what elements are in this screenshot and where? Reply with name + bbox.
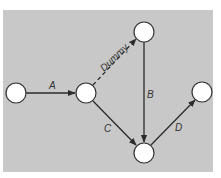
node-5 bbox=[192, 82, 212, 102]
edge-label-d: D bbox=[175, 122, 182, 133]
network-diagram: A Dummy B C D bbox=[0, 0, 221, 178]
node-4 bbox=[134, 143, 154, 163]
edge-label-c: C bbox=[104, 123, 112, 134]
edge-label-b: B bbox=[147, 89, 154, 100]
node-1 bbox=[6, 83, 26, 103]
diagram-canvas: A Dummy B C D bbox=[0, 0, 221, 178]
node-2 bbox=[76, 83, 96, 103]
node-3 bbox=[134, 22, 154, 42]
diagram-background bbox=[3, 10, 213, 172]
edge-label-a: A bbox=[48, 80, 56, 91]
